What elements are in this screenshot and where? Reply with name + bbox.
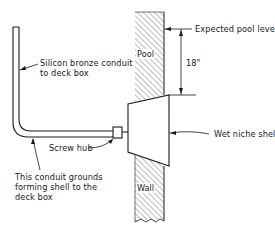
conduit-label: Silicon bronze conduit to deck box: [40, 58, 133, 78]
grounding-leader: [31, 138, 40, 170]
screw-hub: [113, 127, 122, 138]
screw-hub-label: Screw hub: [49, 143, 93, 153]
pool-level-label: Expected pool level: [195, 24, 275, 34]
wet-niche-shell: [128, 95, 169, 166]
conduit: [13, 27, 113, 137]
dimension-label: 18": [186, 58, 200, 68]
niche-label: Wet niche shell: [214, 129, 275, 139]
grounding-note-label: This conduit grounds forming shell to th…: [15, 172, 103, 202]
niche-leader: [170, 131, 209, 135]
conduit-leader: [20, 64, 38, 70]
pool-label: Pool: [136, 49, 155, 59]
wall-label: Wall: [136, 183, 155, 193]
